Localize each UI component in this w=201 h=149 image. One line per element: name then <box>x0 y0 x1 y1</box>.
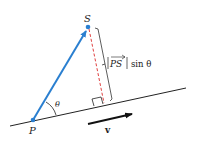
direction-vector-v <box>88 114 132 124</box>
label-p: P <box>28 125 36 136</box>
line-l <box>10 88 186 126</box>
label-s: S <box>84 13 91 24</box>
distance-label-suffix: sin θ <box>131 59 151 69</box>
distance-label: PS sin θ <box>108 55 151 69</box>
point-p <box>31 118 36 123</box>
label-theta: θ <box>55 100 60 109</box>
right-angle-marker <box>92 97 103 106</box>
diagram-canvas: S P θ v PS sin θ <box>0 0 201 149</box>
distance-label-vector: PS <box>109 59 122 69</box>
bracket-tick <box>102 64 105 65</box>
point-s <box>86 25 91 30</box>
label-v: v <box>104 125 111 135</box>
perpendicular-line <box>89 29 104 103</box>
